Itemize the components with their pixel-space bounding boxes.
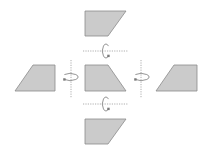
top-rotation-arrow-icon [102,44,109,58]
bottom-trapezoid [85,119,126,144]
bottom-rotation-arrow-icon [102,97,109,111]
right-rotation-arrow-icon [134,74,149,81]
center-trapezoid [85,65,126,91]
right-trapezoid [156,65,197,91]
diagram-canvas [0,0,214,153]
top-trapezoid [85,11,126,36]
left-trapezoid [15,65,55,91]
shapes-layer [15,11,197,144]
reflection-diagram [0,0,214,153]
